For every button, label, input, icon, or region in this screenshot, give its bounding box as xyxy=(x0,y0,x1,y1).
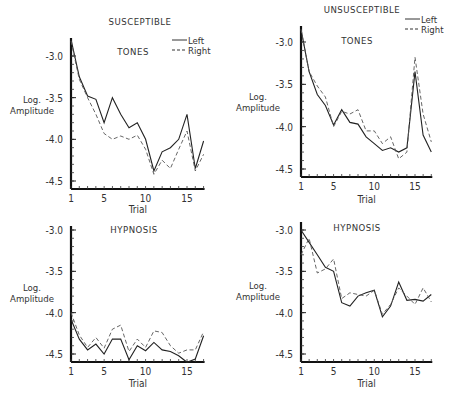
panel-unsusceptible-tones: -3.0-3.5-4.0-4.5151015TrialLog.Amplitude… xyxy=(236,4,444,205)
x-axis-label: Trial xyxy=(128,204,147,215)
y-axis-label-line2: Amplitude xyxy=(10,105,54,116)
y-tick-label: -4.0 xyxy=(45,308,63,319)
y-tick-label: -3.0 xyxy=(275,225,293,236)
series-line-left xyxy=(301,230,431,317)
y-tick-label: -3.0 xyxy=(275,37,293,48)
series-line-left xyxy=(71,319,204,362)
y-tick-label: -3.5 xyxy=(275,79,293,90)
panel-unsusceptible-hypnosis: -3.0-3.5-4.0-4.5151015TrialLog.Amplitude… xyxy=(236,222,432,389)
y-tick-label: -3.5 xyxy=(45,93,63,104)
series-line-right xyxy=(301,238,431,314)
x-tick-label: 15 xyxy=(409,366,420,377)
x-tick-label: 1 xyxy=(298,181,304,192)
x-tick-label: 10 xyxy=(140,366,152,377)
legend-label-right: Right xyxy=(421,24,444,35)
y-tick-label: -3.5 xyxy=(45,266,63,277)
series-line-right xyxy=(71,41,204,174)
panel-susceptible-hypnosis: -3.0-3.5-4.0-4.5151015TrialLog.Amplitude… xyxy=(10,224,204,389)
y-tick-label: -4.0 xyxy=(275,308,293,319)
y-tick-label: -4.5 xyxy=(45,176,63,187)
y-axis-label-line2: Amplitude xyxy=(236,102,280,113)
y-tick-label: -4.5 xyxy=(275,349,293,360)
y-axis-label-line1: Log. xyxy=(249,280,267,291)
series-line-right xyxy=(301,29,431,159)
group-title: UNSUSCEPTIBLE xyxy=(324,4,401,15)
panel-title: HYPNOSIS xyxy=(333,222,380,233)
y-axis-label-line2: Amplitude xyxy=(10,293,54,304)
x-tick-label: 5 xyxy=(101,193,107,204)
x-tick-label: 1 xyxy=(68,193,74,204)
y-tick-label: -3.0 xyxy=(45,225,63,236)
legend-label-right: Right xyxy=(188,45,211,56)
x-axis-label: Trial xyxy=(357,194,376,205)
y-tick-label: -4.5 xyxy=(45,349,63,360)
x-tick-label: 15 xyxy=(409,181,420,192)
x-tick-label: 15 xyxy=(181,193,192,204)
y-axis-label-line1: Log. xyxy=(249,91,267,102)
panel-title: TONES xyxy=(340,35,373,46)
x-axis-label: Trial xyxy=(357,378,376,389)
x-tick-label: 10 xyxy=(369,181,381,192)
y-axis-label-line1: Log. xyxy=(23,282,41,293)
y-tick-label: -4.5 xyxy=(275,164,293,175)
y-tick-label: -4.0 xyxy=(275,122,293,133)
panel-susceptible-tones: -3.0-3.5-4.0-4.5151015TrialLog.Amplitude… xyxy=(10,16,211,215)
x-axis-label: Trial xyxy=(128,378,147,389)
x-tick-label: 5 xyxy=(101,366,107,377)
y-tick-label: -4.0 xyxy=(45,134,63,145)
x-tick-label: 1 xyxy=(68,366,74,377)
x-tick-label: 5 xyxy=(331,181,337,192)
figure-canvas: -3.0-3.5-4.0-4.5151015TrialLog.Amplitude… xyxy=(0,0,451,403)
x-tick-label: 10 xyxy=(369,366,381,377)
x-tick-label: 1 xyxy=(298,366,304,377)
y-axis-label-line2: Amplitude xyxy=(236,291,280,302)
panel-title: HYPNOSIS xyxy=(110,224,157,235)
x-tick-label: 5 xyxy=(331,366,337,377)
x-tick-label: 10 xyxy=(140,193,152,204)
y-tick-label: -3.0 xyxy=(45,51,63,62)
x-tick-label: 15 xyxy=(181,366,192,377)
panel-title: TONES xyxy=(116,46,149,57)
group-title: SUSCEPTIBLE xyxy=(109,16,172,27)
y-axis-label-line1: Log. xyxy=(23,94,41,105)
y-tick-label: -3.5 xyxy=(275,266,293,277)
